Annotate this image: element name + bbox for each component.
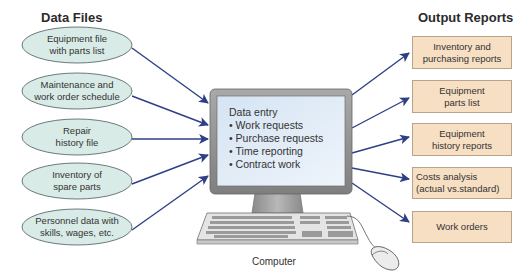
- output-equipment-history: Equipment history reports: [412, 123, 512, 156]
- data-file-inventory: Inventory of spare parts: [25, 169, 129, 193]
- screen-item: Work requests: [229, 119, 323, 132]
- screen-item: Time reporting: [229, 145, 323, 158]
- data-file-personnel: Personnel data with skills, wages, etc.: [25, 215, 129, 239]
- keyboard-icon: [197, 213, 358, 244]
- output-equipment-parts-list: Equipment parts list: [412, 80, 512, 113]
- output-arrows: [352, 53, 409, 222]
- data-files-title: Data Files: [41, 10, 102, 25]
- diagram: Data Files Output Reports Equipment file…: [0, 0, 532, 277]
- output-work-orders: Work orders: [412, 211, 512, 243]
- data-file-maintenance: Maintenance and work order schedule: [25, 79, 129, 103]
- screen-content: Data entry Work requests Purchase reques…: [229, 106, 323, 171]
- output-reports-title: Output Reports: [418, 10, 513, 25]
- screen-heading: Data entry: [229, 106, 323, 119]
- computer-label: Computer: [252, 256, 296, 267]
- output-inventory-purchasing: Inventory and purchasing reports: [412, 36, 512, 69]
- input-arrows: [132, 48, 208, 230]
- screen-item: Contract work: [229, 158, 323, 171]
- data-file-equipment: Equipment file with parts list: [25, 33, 129, 57]
- screen-item: Purchase requests: [229, 132, 323, 145]
- output-costs-analysis: Costs analysis (actual vs.standard): [412, 167, 512, 199]
- data-file-repair-history: Repair history file: [25, 125, 129, 149]
